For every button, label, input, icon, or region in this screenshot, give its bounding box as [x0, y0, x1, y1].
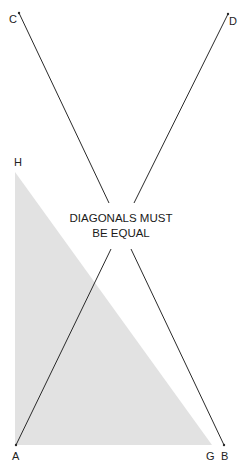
label-d: D	[229, 15, 237, 27]
label-c: C	[9, 13, 17, 25]
point-a-dot	[15, 444, 17, 446]
diagonals-diagram: C D H A G B DIAGONALS MUST BE EQUAL	[0, 0, 242, 471]
label-b: B	[221, 450, 228, 462]
point-b-dot	[223, 444, 225, 446]
caption-line-1: DIAGONALS MUST	[70, 212, 173, 224]
label-h: H	[14, 156, 22, 168]
diagonal-cb-upper	[19, 13, 109, 203]
point-c-dot	[18, 12, 20, 14]
caption-line-2: BE EQUAL	[92, 227, 150, 239]
label-a: A	[12, 450, 20, 462]
diagonal-da-upper	[134, 14, 228, 203]
label-g: G	[206, 450, 215, 462]
